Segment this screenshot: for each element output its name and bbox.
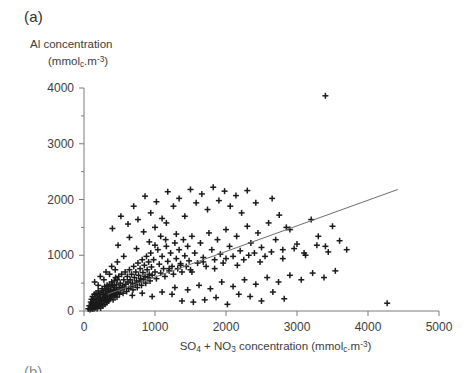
data-point-marker [101,277,107,283]
data-point-marker [134,246,140,252]
x-axis-title-text: SO4 + NO3 concentration (mmolc.m-3) [102,340,372,352]
data-point-marker [264,275,270,281]
data-point-marker [149,294,155,300]
data-point-marker [185,243,191,249]
data-point-marker [182,253,188,259]
data-point-marker [207,286,213,292]
data-point-marker [163,220,169,226]
data-point-marker [169,291,175,297]
data-point-marker [179,298,185,304]
x-tick-label: 0 [81,320,88,334]
x-tick-label: 4000 [355,320,382,334]
data-point-marker [233,193,239,199]
data-point-marker [322,93,328,99]
data-point-marker [337,238,343,244]
data-point-marker [142,193,148,199]
data-point-marker [135,217,141,223]
data-point-marker [322,243,328,249]
data-point-marker [251,250,257,256]
x-tick-label: 2000 [213,320,240,334]
y-tick-label: 2000 [47,193,74,207]
data-point-marker [206,230,212,236]
data-point-marker [266,220,272,226]
data-point-marker [189,233,195,239]
data-point-marker [234,262,240,268]
data-point-marker [247,294,253,300]
y-tick-label: 0 [67,304,74,318]
data-point-marker [214,237,220,243]
data-point-marker [344,247,350,253]
data-point-marker [92,279,98,285]
data-point-marker [172,285,178,291]
data-point-marker [212,266,218,272]
data-point-marker [131,203,137,209]
data-point-marker [186,258,192,264]
data-point-marker [230,283,236,289]
data-point-marker [205,207,211,213]
data-point-marker [280,256,286,262]
next-panel-label-partial: (b) [24,364,42,373]
data-point-marker [244,188,250,194]
x-title-prefix: SO [180,340,197,352]
data-point-marker [259,244,265,250]
data-point-marker [257,259,263,265]
data-point-marker [172,240,178,246]
data-point-marker [190,299,196,305]
data-point-marker [310,270,316,276]
y-tick-label: 4000 [47,81,74,95]
data-point-marker [159,215,165,221]
figure-panel-a: (a) Al concentration (mmolc.m-3) 0100020… [0,0,473,373]
data-point-marker [173,231,179,237]
data-point-marker [176,195,182,201]
data-point-marker [193,200,199,206]
data-point-marker [239,210,245,216]
data-point-marker [182,213,188,219]
data-point-marker [241,277,247,283]
data-point-marker [165,258,171,264]
x-title-sub1: 4 [196,345,201,354]
data-point-marker [179,269,185,275]
data-point-marker [185,287,191,293]
y-tick-label: 3000 [47,137,74,151]
data-point-marker [280,247,286,253]
x-title-sub2: 3 [231,345,236,354]
data-point-marker [129,292,135,298]
data-point-marker [197,240,203,246]
data-point-marker [170,203,176,209]
data-point-marker [281,296,287,302]
x-title-sub3: c [343,345,347,354]
data-point-marker [234,233,240,239]
x-title-mid3: .m [347,340,360,352]
data-points-group [85,93,390,313]
data-point-marker [146,239,152,245]
data-point-marker [148,210,154,216]
x-tick-label: 5000 [426,320,453,334]
data-point-marker [212,257,218,263]
data-point-marker [168,250,174,256]
data-point-marker [241,257,247,263]
data-point-marker [173,256,179,262]
data-point-marker [131,263,137,269]
data-point-marker [262,253,268,259]
data-point-marker [159,253,165,259]
data-point-marker [325,249,331,255]
data-point-marker [230,253,236,259]
data-point-marker [273,237,279,243]
data-point-marker [192,250,198,256]
data-point-marker [298,277,304,283]
x-title-suffix: ) [368,340,372,352]
data-point-marker [314,242,320,248]
data-point-marker [118,213,124,219]
data-point-marker [244,223,250,229]
data-point-marker [159,289,165,295]
data-point-marker [158,233,164,239]
data-point-marker [188,186,194,192]
data-point-marker [112,267,118,273]
scatter-plot-svg: 01000200030004000500001000200030004000 [0,0,473,373]
data-point-marker [202,297,208,303]
data-point-marker [180,237,186,243]
x-axis-title: SO4 + NO3 concentration (mmolc.m-3) [0,340,473,352]
data-point-marker [213,295,219,301]
data-point-marker [114,259,120,265]
data-point-marker [135,260,141,266]
